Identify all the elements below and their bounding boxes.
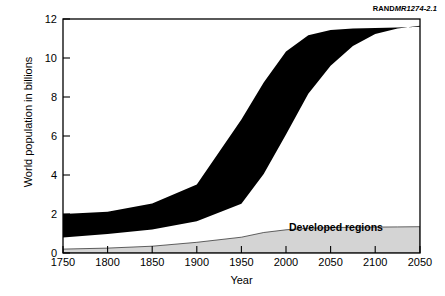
x-tick-label: 2050 <box>308 256 354 268</box>
series-label-developing: Developing regions <box>297 136 394 148</box>
x-axis-title: Year <box>63 274 420 286</box>
x-tick-label: 1950 <box>218 256 264 268</box>
chart-figure: RANDMR1274-2.1 World population in billi… <box>0 0 445 296</box>
x-tick-label: 2050 <box>397 256 443 268</box>
series-label-developed: Developed regions <box>289 221 383 233</box>
x-tick-label: 1800 <box>85 256 131 268</box>
x-tick-label: 2100 <box>352 256 398 268</box>
x-tick-label: 1850 <box>129 256 175 268</box>
x-tick-label: 1750 <box>40 256 86 268</box>
x-tick-label: 1900 <box>174 256 220 268</box>
plot-area <box>0 0 445 296</box>
x-tick-label: 2000 <box>263 256 309 268</box>
